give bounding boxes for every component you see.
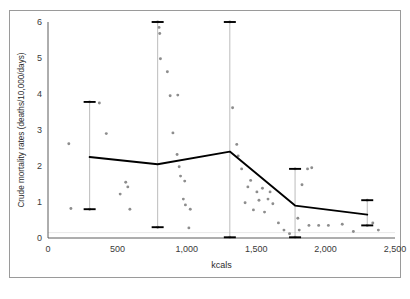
y-axis-title: Crude mortality rates (deaths/10,000/day… [17,52,26,207]
x-tick-label: 0 [45,244,50,254]
scatter-point [252,208,255,211]
x-tick-label: 2,000 [314,244,337,254]
scatter-point [296,217,299,220]
scatter-point [176,94,179,97]
scatter-point [184,203,187,206]
x-tick-label: 1,000 [176,244,199,254]
scatter-point [183,180,186,183]
scatter-point [310,166,313,169]
scatter-point [306,167,309,170]
scatter-point [255,190,258,193]
x-tick-label: 1,500 [245,244,268,254]
scatter-point [69,207,72,210]
scatter-point [269,190,272,193]
scatter-point [341,223,344,226]
y-tick-label: 2 [37,161,42,171]
x-tick-label: 500 [110,244,125,254]
scatter-point [298,229,301,232]
scatter-point [244,201,247,204]
chart-root: 012345605001,0001,5002,0002,500kcalsCrud… [0,0,410,299]
scatter-point [182,198,185,201]
mean-trend-line [90,152,368,215]
y-tick-label: 1 [37,197,42,207]
y-tick-label: 3 [37,125,42,135]
scatter-point [246,185,249,188]
scatter-point [249,179,252,182]
x-axis-title: kcals [211,260,232,270]
scatter-point [171,131,174,134]
scatter-point [288,232,291,235]
y-tick-label: 4 [37,89,42,99]
scatter-point [67,142,70,145]
scatter-point [377,229,380,232]
scatter-point [159,57,162,60]
scatter-point [169,94,172,97]
scatter-point [231,106,234,109]
scatter-point [98,102,101,105]
scatter-point [187,226,190,229]
scatter-point [240,167,243,170]
scatter-point [301,183,304,186]
scatter-point [179,175,182,178]
scatter-point [166,70,169,73]
x-tick-label: 2,500 [384,244,407,254]
scatter-point [317,224,320,227]
scatter-point [105,132,108,135]
scatter-plot-canvas: 012345605001,0001,5002,0002,500kcalsCrud… [0,0,410,299]
scatter-point [271,202,274,205]
scatter-point [124,181,127,184]
scatter-point [283,229,286,232]
y-tick-label: 6 [37,17,42,27]
scatter-point [277,221,280,224]
scatter-point [126,185,129,188]
scatter-point [119,193,122,196]
scatter-point [189,208,192,211]
scatter-point [327,224,330,227]
scatter-point [258,199,261,202]
scatter-point [371,221,374,224]
scatter-point [176,153,179,156]
scatter-point [261,187,264,190]
scatter-point [235,143,238,146]
y-tick-label: 5 [37,53,42,63]
scatter-point [178,165,181,168]
scatter-point [307,224,310,227]
scatter-point [128,208,131,211]
scatter-point [158,32,161,35]
scatter-point [352,230,355,233]
scatter-point [263,211,266,214]
scatter-point [267,198,270,201]
y-tick-label: 0 [37,233,42,243]
